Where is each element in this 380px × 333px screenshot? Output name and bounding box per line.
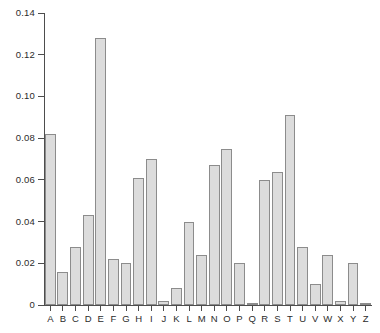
bar-b [57, 272, 68, 305]
x-axis-tick [214, 306, 215, 311]
x-axis-tick [113, 306, 114, 311]
x-axis-tick [176, 306, 177, 311]
x-axis-tick [239, 306, 240, 311]
x-axis-tick [151, 306, 152, 311]
x-axis-tick [315, 306, 316, 311]
bar-t [285, 115, 296, 305]
bar-n [209, 165, 220, 305]
x-axis-tick [100, 306, 101, 311]
bar-u [297, 247, 308, 305]
bar-k [171, 288, 182, 305]
x-axis-tick [277, 306, 278, 311]
x-axis-tick [50, 306, 51, 311]
bar-w [322, 255, 333, 305]
x-axis-tick [75, 306, 76, 311]
x-axis-tick [201, 306, 202, 311]
bar-d [83, 215, 94, 305]
bars-layer [0, 0, 380, 333]
x-axis-tick [189, 306, 190, 311]
x-axis-tick [340, 306, 341, 311]
x-axis-tick [138, 306, 139, 311]
x-axis-line [44, 305, 372, 306]
x-axis-tick [302, 306, 303, 311]
x-axis-tick [126, 306, 127, 311]
bar-chart: 00.020.040.060.080.100.120.14 ABCDEFGHIJ… [0, 0, 380, 333]
bar-y [348, 263, 359, 305]
x-axis-tick [163, 306, 164, 311]
bar-i [146, 159, 157, 305]
x-axis-tick [252, 306, 253, 311]
bar-a [45, 134, 56, 305]
x-axis-tick [226, 306, 227, 311]
bar-c [70, 247, 81, 305]
bar-v [310, 284, 321, 305]
x-axis-tick [264, 306, 265, 311]
bar-r [259, 180, 270, 305]
x-axis-tick [290, 306, 291, 311]
x-axis-tick [365, 306, 366, 311]
bar-g [121, 263, 132, 305]
bar-p [234, 263, 245, 305]
bar-l [184, 222, 195, 305]
bar-m [196, 255, 207, 305]
x-axis-tick [88, 306, 89, 311]
bar-o [221, 149, 232, 305]
x-axis-tick [353, 306, 354, 311]
x-axis-tick-label: Z [359, 313, 373, 324]
bar-e [95, 38, 106, 305]
bar-h [133, 178, 144, 305]
bar-s [272, 172, 283, 305]
x-axis-tick [327, 306, 328, 311]
x-axis-tick [62, 306, 63, 311]
bar-f [108, 259, 119, 305]
